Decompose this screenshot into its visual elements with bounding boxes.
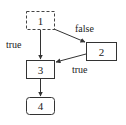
node-4: 4 [27,98,55,115]
node-2-label: 2 [99,46,105,58]
node-1-label: 1 [38,15,44,27]
edge-1-to-3-label: true [6,39,22,50]
node-2: 2 [87,43,117,61]
edge-2-to-3: true [56,54,88,75]
node-4-label: 4 [38,100,44,112]
node-3: 3 [27,61,55,79]
node-1: 1 [27,12,55,30]
diagram-canvas: 1 2 3 4 true false true [0,0,126,125]
edge-1-to-2: false [54,23,94,42]
node-3-label: 3 [38,64,44,76]
control-flow-diagram: 1 2 3 4 true false true [0,0,126,125]
edge-1-to-2-label: false [75,23,94,34]
edge-1-to-3: true [6,30,41,59]
edge-2-to-3-label: true [72,64,88,75]
